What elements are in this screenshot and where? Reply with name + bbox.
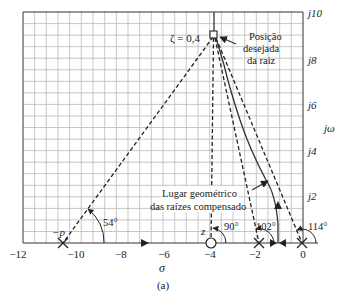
- x-tick-0: 0: [300, 248, 306, 260]
- angle-label-54: 54°: [103, 217, 118, 228]
- angle-label-114: 114°: [308, 221, 328, 232]
- angle-label-102: 102°: [256, 221, 276, 232]
- x-axis-label: σ: [159, 261, 166, 275]
- figure-caption: (a): [157, 279, 170, 292]
- y-axis-label: jω: [322, 122, 335, 134]
- desired-root-pointer: [220, 37, 236, 44]
- x-tick-minus8: −8: [115, 248, 127, 260]
- locus-label-1: Lugar geométrico: [162, 188, 237, 199]
- x-tick-minus2: −2: [249, 248, 261, 260]
- angle-label-90: 90°: [224, 221, 239, 232]
- line-to-zero: [211, 38, 214, 243]
- y-tick-j10: j10: [306, 7, 323, 19]
- y-tick-j8: j8: [306, 54, 317, 66]
- x-tick-minus6: −6: [158, 248, 170, 260]
- real-axis-arrow-icon: [141, 239, 149, 247]
- x-tick-minus12: −12: [9, 248, 26, 260]
- compensated-root-locus: [216, 38, 278, 243]
- x-tick-minus4: −4: [204, 248, 216, 260]
- desired-root-label-1: Posição: [249, 31, 282, 42]
- desired-root-label-2: desejada: [243, 43, 279, 54]
- y-tick-j6: j6: [306, 99, 317, 111]
- angle-arc-54: [88, 209, 104, 243]
- line-to-pole-p: [63, 37, 213, 243]
- zero-icon: [206, 238, 216, 248]
- line-to-pole-0: [216, 38, 302, 243]
- zeta-label: ζ = 0,4: [170, 32, 201, 45]
- pole-p-label: −p: [52, 226, 65, 238]
- x-tick-minus10: −10: [67, 248, 85, 260]
- y-tick-j2: j2: [306, 190, 317, 202]
- locus-label-2: das raízes compensado: [150, 201, 246, 212]
- desired-root-label-3: da raiz: [247, 55, 276, 66]
- root-locus-diagram: ζ = 0,4 Posição desejada da raiz Lugar g…: [0, 0, 342, 293]
- zero-label: z: [200, 225, 206, 237]
- y-tick-j4: j4: [306, 145, 317, 157]
- desired-root-marker: [210, 31, 217, 38]
